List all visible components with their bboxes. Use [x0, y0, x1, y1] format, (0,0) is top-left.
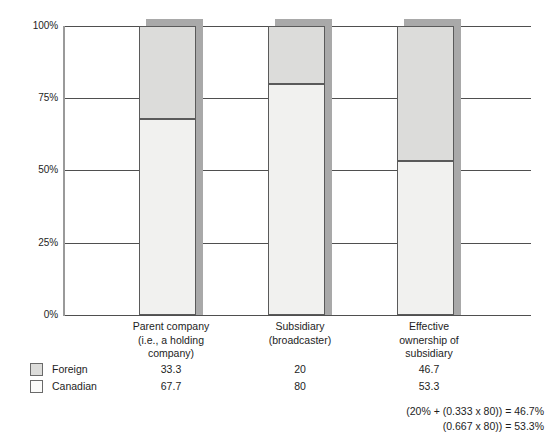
category-label-line: ownership of — [364, 334, 494, 348]
y-tick-25: 25% — [0, 238, 58, 248]
value-foreign-parent-company: 33.3 — [116, 363, 226, 375]
plot-area: 100% 75% 50% 25% 0% — [0, 0, 556, 330]
value-foreign-subsidiary: 20 — [245, 363, 355, 375]
y-tick-0: 0% — [0, 310, 58, 320]
y-axis-line — [63, 26, 65, 316]
footnote-block: (20% + (0.333 x 80)) = 46.7% (0.667 x 80… — [300, 404, 544, 434]
bar-group-subsidiary — [268, 0, 332, 330]
legend-label-foreign: Foreign — [52, 363, 88, 375]
value-canadian-effective-ownership: 53.3 — [374, 380, 484, 392]
legend-row-foreign: Foreign 33.3 20 46.7 — [0, 361, 556, 378]
y-tick-75: 75% — [0, 93, 58, 103]
y-tick-100-label: 100% — [6, 21, 58, 31]
category-label-parent-company: Parent company (i.e., a holding company) — [106, 320, 236, 361]
bar-group-effective-ownership — [397, 0, 461, 330]
y-tick-0-label: 0% — [6, 310, 58, 320]
category-label-line: (broadcaster) — [235, 334, 365, 348]
legend-swatch-canadian-icon — [30, 380, 43, 393]
category-label-line: subsidiary — [364, 347, 494, 361]
footnote-line-2: (0.667 x 80)) = 53.3% — [300, 419, 544, 434]
legend-row-canadian: Canadian 67.7 80 53.3 — [0, 378, 556, 395]
y-tick-50-label: 50% — [6, 165, 58, 175]
category-label-subsidiary: Subsidiary (broadcaster) — [235, 320, 365, 347]
category-label-line: company) — [106, 347, 236, 361]
category-label-line: Subsidiary — [235, 320, 365, 334]
y-tick-100: 100% — [0, 21, 58, 31]
bar-group-parent-company — [139, 0, 203, 330]
legend-swatch-foreign-icon — [30, 363, 43, 376]
y-tick-50: 50% — [0, 165, 58, 175]
footnote-line-1: (20% + (0.333 x 80)) = 46.7% — [300, 404, 544, 419]
chart-figure: 100% 75% 50% 25% 0% — [0, 0, 556, 444]
value-canadian-subsidiary: 80 — [245, 380, 355, 392]
category-label-effective-ownership: Effective ownership of subsidiary — [364, 320, 494, 361]
bar-segment-foreign[interactable] — [397, 26, 454, 161]
bar-segment-canadian[interactable] — [268, 84, 325, 315]
legend: Foreign 33.3 20 46.7 Canadian 67.7 80 53… — [0, 361, 556, 401]
bar-segment-foreign[interactable] — [139, 26, 196, 119]
category-label-line: Effective — [364, 320, 494, 334]
bar-segment-canadian[interactable] — [397, 161, 454, 315]
y-tick-75-label: 75% — [6, 93, 58, 103]
legend-label-canadian: Canadian — [52, 380, 97, 392]
category-label-line: (i.e., a holding — [106, 334, 236, 348]
value-canadian-parent-company: 67.7 — [116, 380, 226, 392]
bar-segment-foreign[interactable] — [268, 26, 325, 84]
bar-segment-canadian[interactable] — [139, 119, 196, 315]
category-label-line: Parent company — [106, 320, 236, 334]
value-foreign-effective-ownership: 46.7 — [374, 363, 484, 375]
y-tick-25-label: 25% — [6, 238, 58, 248]
